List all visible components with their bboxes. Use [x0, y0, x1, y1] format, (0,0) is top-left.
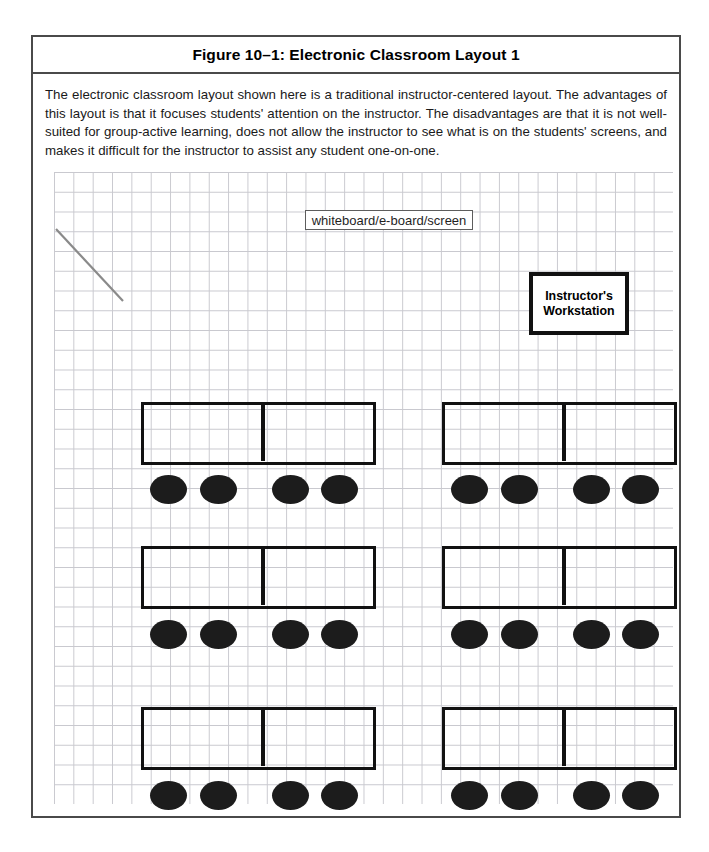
student-chair [200, 781, 237, 810]
table-divider [261, 405, 265, 461]
student-chair [200, 620, 237, 649]
student-table [442, 707, 677, 770]
instructor-workstation-label: Instructor's Workstation [543, 289, 614, 319]
table-divider [261, 710, 265, 766]
instructor-workstation-box: Instructor's Workstation [529, 272, 629, 335]
student-chair [501, 620, 538, 649]
student-table [141, 402, 376, 465]
student-chair [501, 781, 538, 810]
student-chair [622, 781, 659, 810]
figure-frame: Figure 10–1: Electronic Classroom Layout… [31, 35, 681, 818]
student-chair [622, 475, 659, 504]
table-divider [562, 549, 566, 605]
student-table [141, 546, 376, 609]
student-chair [150, 475, 187, 504]
instructor-workstation-label-line2: Workstation [543, 304, 614, 318]
student-table [442, 546, 677, 609]
student-chair [321, 620, 358, 649]
student-chair [200, 475, 237, 504]
student-table [442, 402, 677, 465]
student-chair [501, 475, 538, 504]
classroom-layout-diagram: whiteboard/e-board/screen Instructor's W… [54, 172, 673, 804]
student-chair [573, 475, 610, 504]
instructor-workstation-label-line1: Instructor's [545, 289, 613, 303]
student-chair [321, 781, 358, 810]
figure-description-text: The electronic classroom layout shown he… [45, 86, 667, 160]
diagonal-pointer-line [56, 229, 123, 301]
student-chair [321, 475, 358, 504]
table-divider [562, 405, 566, 461]
student-chair [573, 620, 610, 649]
student-chair [622, 620, 659, 649]
whiteboard-label: whiteboard/e-board/screen [312, 213, 467, 228]
whiteboard-screen-box: whiteboard/e-board/screen [305, 210, 473, 230]
student-chair [272, 475, 309, 504]
student-chair [272, 620, 309, 649]
figure-title-band: Figure 10–1: Electronic Classroom Layout… [33, 37, 679, 74]
page-title: Figure 10–1: Electronic Classroom Layout… [192, 46, 519, 64]
table-divider [261, 549, 265, 605]
student-table [141, 707, 376, 770]
student-chair [451, 781, 488, 810]
student-chair [272, 781, 309, 810]
student-chair [451, 620, 488, 649]
student-chair [573, 781, 610, 810]
student-chair [451, 475, 488, 504]
table-divider [562, 710, 566, 766]
student-chair [150, 781, 187, 810]
student-chair [150, 620, 187, 649]
